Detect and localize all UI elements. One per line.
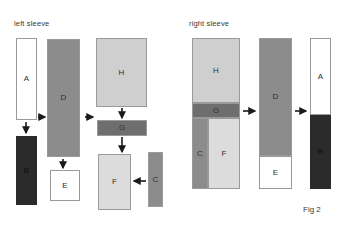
flow-arrows-layer: [0, 0, 346, 231]
figure-canvas: left sleeve right sleeve A B D E H G F C…: [0, 0, 346, 231]
figure-caption: Fig 2: [303, 206, 321, 214]
